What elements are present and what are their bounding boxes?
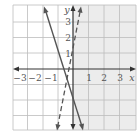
x-tick-2: 2 [101,73,107,83]
coordinate-plane: −3 −2 −1 1 2 3 x 1 2 3 y [0,0,139,134]
x-tick-neg3: −3 [13,73,27,83]
y-axis-label: y [63,4,70,15]
y-tick-3: 3 [65,17,71,27]
x-tick-neg2: −2 [28,73,41,83]
shaded-region [73,5,136,130]
y-tick-2: 2 [65,33,71,43]
x-axis-label: x [129,72,135,83]
y-tick-labels: 1 2 3 y [63,4,71,59]
solid-line-top-arrow-icon [44,7,49,14]
x-axis-left-arrow-icon [13,67,19,72]
y-tick-1: 1 [65,49,71,59]
x-tick-3: 3 [117,73,123,83]
x-tick-neg1: −1 [44,73,57,83]
x-tick-1: 1 [86,73,92,83]
